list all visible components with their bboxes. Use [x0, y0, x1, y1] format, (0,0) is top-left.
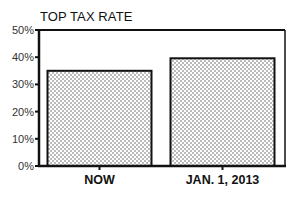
bars — [48, 58, 275, 166]
x-category-label: JAN. 1, 2013 — [186, 173, 260, 187]
bar — [48, 71, 152, 166]
y-tick-label: 40% — [12, 51, 34, 63]
x-category-label: NOW — [84, 173, 115, 187]
y-tick-label: 30% — [12, 78, 34, 90]
y-axis: 0%10%20%30%40%50% — [12, 24, 39, 172]
y-tick-label: 20% — [12, 106, 34, 118]
bar-chart: 0%10%20%30%40%50% NOWJAN. 1, 2013 — [0, 0, 300, 197]
y-tick-label: 10% — [12, 133, 34, 145]
y-tick-label: 50% — [12, 24, 34, 36]
y-tick-label: 0% — [18, 160, 34, 172]
x-axis: NOWJAN. 1, 2013 — [38, 166, 286, 187]
bar — [171, 58, 275, 166]
